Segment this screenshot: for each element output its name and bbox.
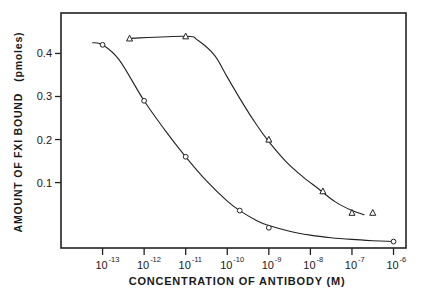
circle-marker-icon	[266, 225, 271, 230]
circle-marker-icon	[391, 239, 396, 244]
x-tick-label: 10	[345, 259, 357, 271]
antibody-binding-chart: 0.10.20.30.4 10-1310-1210-1110-1010-910-…	[0, 0, 425, 296]
plot-frame	[61, 13, 406, 248]
circle-marker-icon	[100, 42, 105, 47]
circle-marker-icon	[142, 98, 147, 103]
x-tick-exponent: -9	[275, 255, 282, 264]
curve-circles	[92, 43, 393, 242]
x-tick-label: 10	[95, 259, 107, 271]
x-tick-exponent: -7	[358, 255, 365, 264]
y-tick-label: 0.4	[37, 47, 52, 59]
x-tick-label: 10	[303, 259, 315, 271]
x-axis-label: CONCENTRATION OF ANTIBODY (M)	[129, 275, 346, 287]
y-axis: 0.10.20.30.4	[37, 47, 61, 188]
y-tick-label: 0.3	[37, 90, 52, 102]
y-tick-label: 0.2	[37, 134, 52, 146]
x-tick-exponent: -8	[316, 255, 323, 264]
x-tick-exponent: -10	[233, 255, 244, 264]
x-tick-label: 10	[262, 259, 274, 271]
x-axis: 10-1310-1210-1110-1010-910-810-710-6	[95, 248, 406, 271]
x-tick-label: 10	[220, 259, 232, 271]
circle-marker-icon	[237, 208, 242, 213]
circle-marker-icon	[183, 154, 188, 159]
x-tick-label: 10	[137, 259, 149, 271]
triangle-marker-icon	[370, 210, 376, 216]
curve-triangles	[130, 36, 365, 215]
x-tick-exponent: -11	[192, 255, 202, 264]
y-axis-label: AMOUNT OF FXI BOUND (pmoles)	[12, 32, 24, 233]
x-tick-exponent: -12	[150, 255, 161, 264]
triangle-marker-icon	[349, 210, 355, 216]
x-tick-exponent: -6	[400, 255, 407, 264]
x-tick-exponent: -13	[109, 255, 120, 264]
data-points	[100, 33, 396, 244]
x-tick-label: 10	[386, 259, 398, 271]
fitted-curves	[92, 36, 393, 241]
x-tick-label: 10	[179, 259, 191, 271]
y-tick-label: 0.1	[37, 177, 52, 189]
